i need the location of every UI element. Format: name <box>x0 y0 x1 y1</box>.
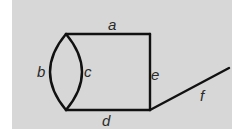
edge-f <box>150 68 229 110</box>
label-b: b <box>37 63 45 80</box>
edge-c <box>66 34 82 110</box>
label-a: a <box>108 16 116 33</box>
graph-diagram: a b c e f d <box>0 0 238 136</box>
label-f: f <box>200 87 206 104</box>
label-c: c <box>84 63 92 80</box>
label-d: d <box>102 112 111 129</box>
label-e: e <box>151 66 159 83</box>
edge-b <box>50 34 66 110</box>
